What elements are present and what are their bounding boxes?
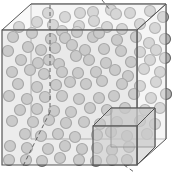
dashed-edge <box>124 165 134 172</box>
cube-diagram-canvas <box>0 0 172 172</box>
small-cube-front-face <box>93 126 137 165</box>
particles-in-cube-diagram <box>0 0 172 172</box>
small-sub-cube <box>93 108 155 165</box>
